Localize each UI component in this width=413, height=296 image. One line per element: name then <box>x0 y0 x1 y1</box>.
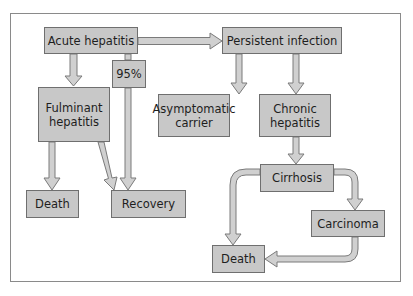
node-label: 95% <box>116 67 142 81</box>
node-cirrhosis: Cirrhosis <box>260 164 334 192</box>
node-chronic-hepatitis: Chronic hepatitis <box>259 94 331 137</box>
node-label: Chronic hepatitis <box>268 102 322 130</box>
arrow-carcinoma-to-death <box>265 237 358 267</box>
node-recovery: Recovery <box>111 190 186 218</box>
node-acute-hepatitis: Acute hepatitis <box>44 27 138 54</box>
arrow-cirrhosis-to-carcinoma <box>334 169 363 210</box>
node-label: Asymptomatic carrier <box>153 102 236 130</box>
node-death-chronic: Death <box>212 245 265 273</box>
arrow-95-to-recovery <box>120 88 136 190</box>
node-label: Death <box>35 197 70 211</box>
node-label: Fulminant hepatitis <box>45 101 103 129</box>
arrow-acute-to-persistent <box>138 33 222 49</box>
node-label: Cirrhosis <box>272 171 322 185</box>
node-95-percent: 95% <box>112 60 146 88</box>
node-label: Acute hepatitis <box>48 34 135 48</box>
node-death-fulminant: Death <box>26 190 79 218</box>
node-label: Persistent infection <box>227 34 338 48</box>
arrow-fulminant-to-recovery <box>98 142 117 190</box>
arrow-persistent-to-asymptomatic <box>231 54 247 94</box>
node-label: Carcinoma <box>317 217 379 231</box>
arrow-fulminant-to-death <box>44 142 60 190</box>
node-persistent-infection: Persistent infection <box>222 27 342 54</box>
node-label: Recovery <box>122 197 175 211</box>
node-asymptomatic-carrier: Asymptomatic carrier <box>158 94 230 137</box>
node-carcinoma: Carcinoma <box>311 210 385 237</box>
arrow-chronic-to-cirrhosis <box>288 137 304 164</box>
node-label: Death <box>221 252 256 266</box>
arrow-acute-to-fulminant <box>65 54 82 86</box>
arrow-persistent-to-chronic <box>288 54 304 94</box>
node-fulminant-hepatitis: Fulminant hepatitis <box>38 87 110 142</box>
arrow-cirrhosis-to-death <box>225 169 260 245</box>
